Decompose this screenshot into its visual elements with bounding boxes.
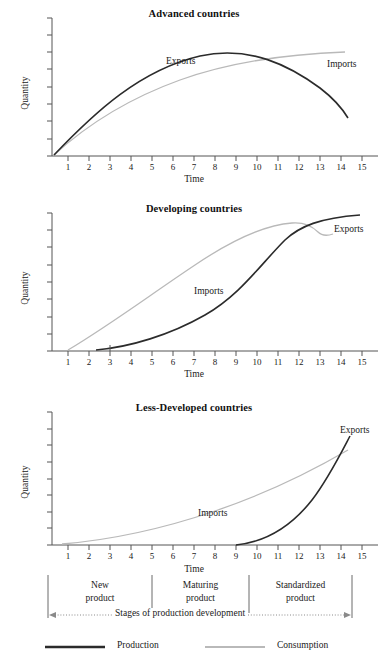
x-axis-label: Time [0,564,388,574]
stages-band: New product Maturing product Standardize… [0,575,388,625]
legend-label-production: Production [117,640,159,650]
x-tick-label: 14 [334,162,348,172]
product-life-cycle-figure: Advanced countries Quantity [0,0,388,663]
x-tick-label: 3 [103,551,117,561]
arrow-left-icon [49,612,56,618]
x-tick-label: 13 [313,551,327,561]
x-tick-label: 15 [355,162,369,172]
x-tick-label: 7 [187,357,201,367]
x-tick-label: 3 [103,162,117,172]
x-tick-label: 12 [292,551,306,561]
panel-2-plot [0,190,388,380]
x-axis-label: Time [0,174,388,184]
x-tick-label: 11 [271,162,285,172]
x-axis-ticks [68,351,362,356]
stage-standardized-product: Standardized product [249,579,352,604]
x-tick-label: 4 [124,162,138,172]
production-curve [236,436,350,545]
legend-label-consumption: Consumption [277,640,328,650]
x-tick-label: 12 [292,162,306,172]
x-tick-label: 2 [82,162,96,172]
production-series-label: Exports [166,56,196,66]
x-tick-label: 6 [166,551,180,561]
stage-label-line1: New [48,579,152,592]
x-tick-label: 2 [82,357,96,367]
stage-label-line2: product [48,592,152,605]
stage-new-product: New product [48,579,152,604]
x-tick-label: 10 [250,357,264,367]
x-tick-label: 1 [61,357,75,367]
arrow-right-icon [344,612,351,618]
x-tick-label: 13 [313,357,327,367]
production-series-label: Exports [334,224,364,234]
x-tick-label: 10 [250,551,264,561]
consumption-series-label: Imports [327,59,357,69]
y-axis-ticks [47,18,52,156]
stage-label-line1: Standardized [249,579,352,592]
x-tick-label: 14 [334,357,348,367]
x-axis-ticks [68,156,362,161]
panel-3-plot [0,380,388,555]
x-tick-label: 9 [229,357,243,367]
y-axis-ticks [47,412,52,545]
legend-swatches [0,638,388,663]
consumption-series-label: Imports [194,286,224,296]
stage-label-line2: product [152,592,249,605]
consumption-curve [54,52,345,155]
x-tick-label: 9 [229,551,243,561]
stages-caption: Stages of production development [112,608,248,618]
panel-advanced-countries: Advanced countries Quantity [0,0,388,190]
panel-less-developed-countries: Less-Developed countries Quantity [0,380,388,555]
x-tick-label: 1 [61,162,75,172]
x-tick-label: 11 [271,357,285,367]
stage-maturing-product: Maturing product [152,579,249,604]
x-tick-label: 5 [145,551,159,561]
x-tick-label: 7 [187,551,201,561]
x-tick-label: 6 [166,162,180,172]
x-tick-label: 10 [250,162,264,172]
production-series-label: Exports [340,425,370,435]
x-tick-label: 5 [145,162,159,172]
x-tick-label: 4 [124,357,138,367]
stage-label-line2: product [249,592,352,605]
consumption-series-label: Imports [198,508,228,518]
production-curve [96,215,360,350]
x-tick-label: 12 [292,357,306,367]
x-tick-label: 8 [208,551,222,561]
x-tick-label: 9 [229,162,243,172]
stage-label-line1: Maturing [152,579,249,592]
x-tick-label: 1 [61,551,75,561]
y-axis-ticks [47,213,52,351]
x-tick-label: 14 [334,551,348,561]
x-axis-label: Time [0,369,388,379]
x-tick-label: 5 [145,357,159,367]
x-tick-label: 2 [82,551,96,561]
x-tick-label: 8 [208,162,222,172]
production-curve [54,53,348,155]
x-tick-label: 3 [103,357,117,367]
panel-developing-countries: Developing countries Quantity [0,190,388,380]
x-tick-label: 6 [166,357,180,367]
x-tick-label: 15 [355,357,369,367]
x-tick-label: 8 [208,357,222,367]
x-tick-label: 7 [187,162,201,172]
legend: Production Consumption [0,638,388,663]
consumption-curve [62,450,348,544]
x-tick-label: 11 [271,551,285,561]
x-tick-label: 13 [313,162,327,172]
x-tick-label: 15 [355,551,369,561]
x-axis-ticks [68,545,362,550]
x-tick-label: 4 [124,551,138,561]
